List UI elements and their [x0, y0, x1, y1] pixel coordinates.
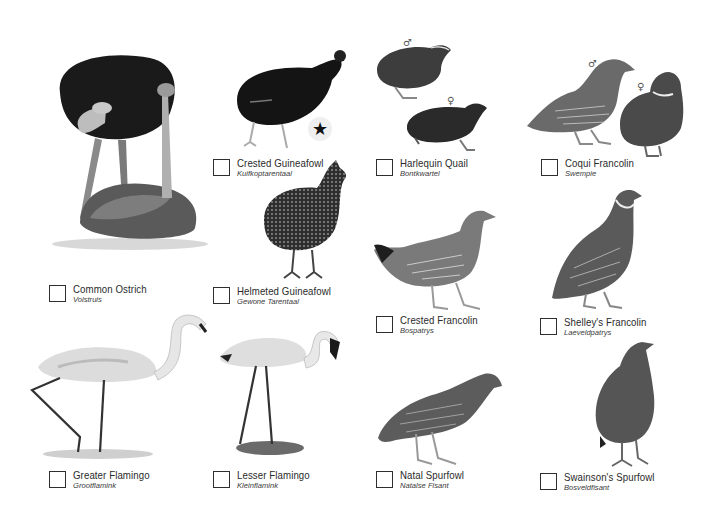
helmeted-guineafowl-illustration [262, 160, 352, 282]
swainsons-spurfowl-illustration [592, 340, 662, 468]
checklist-entry-crested-francolin: Crested Francolin Bospatrys [376, 314, 485, 335]
checklist-entry-helmeted-guineafowl: Helmeted Guineafowl Gewone Tarentaal [213, 285, 339, 306]
checkbox-icon[interactable] [213, 159, 230, 176]
natal-spurfowl-illustration [376, 370, 506, 468]
afrikaans-name: Grootflamink [73, 481, 152, 490]
checklist-entry-greater-flamingo: Greater Flamingo Grootflamink [49, 469, 156, 490]
english-name: Swainson's Spurfowl [564, 471, 655, 483]
checklist-entry-lesser-flamingo: Lesser Flamingo Kleinflamink [213, 469, 316, 490]
english-name: Crested Guineafowl [237, 157, 323, 169]
checkbox-icon[interactable] [541, 159, 558, 176]
crested-francolin-illustration [372, 205, 500, 313]
afrikaans-name: Bospatrys [400, 326, 480, 335]
crested-guineafowl-illustration [232, 50, 352, 150]
afrikaans-name: Gewone Tarentaal [237, 297, 334, 306]
checkbox-icon[interactable] [376, 471, 393, 488]
lesser-flamingo-illustration [218, 328, 348, 458]
afrikaans-name: Swempie [565, 169, 636, 178]
english-name: Helmeted Guineafowl [237, 285, 331, 297]
afrikaans-name: Bontkwartel [400, 169, 470, 178]
star-icon: ★ [308, 117, 332, 141]
harlequin-quail-male-illustration [375, 42, 455, 100]
afrikaans-name: Bosveldfisant [564, 483, 658, 492]
afrikaans-name: Natalse Fisant [400, 481, 466, 490]
english-name: Shelley's Francolin [564, 316, 647, 328]
afrikaans-name: Kleinflamink [237, 481, 312, 490]
checklist-entry-coqui-francolin: Coqui Francolin Swempie [541, 157, 640, 178]
checkbox-icon[interactable] [540, 473, 557, 490]
harlequin-quail-female-illustration [405, 100, 490, 152]
afrikaans-name: Laeveldpatrys [564, 328, 649, 337]
english-name: Crested Francolin [400, 314, 478, 326]
checklist-entry-swainsons-spurfowl: Swainson's Spurfowl Bosveldfisant [540, 471, 662, 492]
checkbox-icon[interactable] [49, 285, 66, 302]
greater-flamingo-illustration [28, 312, 208, 462]
checkbox-icon[interactable] [213, 287, 230, 304]
checklist-entry-crested-guineafowl: Crested Guineafowl Kuifkoptarentaal [213, 157, 331, 178]
checkbox-icon[interactable] [376, 316, 393, 333]
checkbox-icon[interactable] [540, 318, 557, 335]
ostrich-illustration [50, 48, 210, 253]
checkbox-icon[interactable] [49, 471, 66, 488]
afrikaans-name: Kuifkoptarentaal [237, 169, 326, 178]
coqui-francolin-female-illustration [615, 70, 687, 158]
english-name: Harlequin Quail [400, 157, 468, 169]
checkbox-icon[interactable] [213, 471, 230, 488]
checklist-entry-natal-spurfowl: Natal Spurfowl Natalse Fisant [376, 469, 470, 490]
shelleys-francolin-illustration [550, 188, 645, 310]
checklist-entry-common-ostrich: Common Ostrich Volstruis [49, 283, 153, 304]
english-name: Coqui Francolin [565, 157, 634, 169]
checklist-entry-shelleys-francolin: Shelley's Francolin Laeveldpatrys [540, 316, 654, 337]
checklist-entry-harlequin-quail: Harlequin Quail Bontkwartel [376, 157, 474, 178]
english-name: Lesser Flamingo [237, 469, 310, 481]
english-name: Common Ostrich [73, 283, 147, 295]
english-name: Natal Spurfowl [400, 469, 464, 481]
english-name: Greater Flamingo [73, 469, 150, 481]
checkbox-icon[interactable] [376, 159, 393, 176]
afrikaans-name: Volstruis [73, 295, 149, 304]
